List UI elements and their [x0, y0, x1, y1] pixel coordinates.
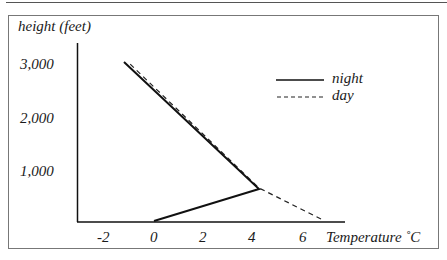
series-day — [128, 62, 321, 219]
y-tick-3000: 3,000 — [20, 56, 54, 73]
y-tick-2000: 2,000 — [20, 110, 54, 127]
x-tick-2: 2 — [199, 229, 207, 246]
x-axis-label: Temperature ˚C — [326, 229, 420, 246]
legend-day-label: day — [332, 87, 354, 104]
x-tick-4: 4 — [248, 229, 256, 246]
y-axis-label: height (feet) — [18, 18, 91, 35]
y-tick-1000: 1,000 — [20, 163, 54, 180]
chart-plot — [0, 0, 447, 260]
x-tick-0: 0 — [150, 229, 158, 246]
x-tick-neg2: -2 — [97, 229, 110, 246]
legend-night-label: night — [332, 70, 363, 87]
series-night — [124, 62, 259, 221]
x-tick-6: 6 — [299, 229, 307, 246]
